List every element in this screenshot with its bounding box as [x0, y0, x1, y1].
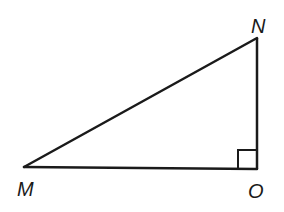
side-mo: [24, 167, 257, 169]
vertex-label-m: M: [17, 178, 34, 200]
vertex-label-o: O: [248, 180, 264, 202]
right-angle-marker: [238, 150, 257, 169]
vertex-label-n: N: [251, 15, 266, 37]
triangle-diagram: N M O: [0, 0, 284, 212]
side-mn: [24, 38, 257, 167]
